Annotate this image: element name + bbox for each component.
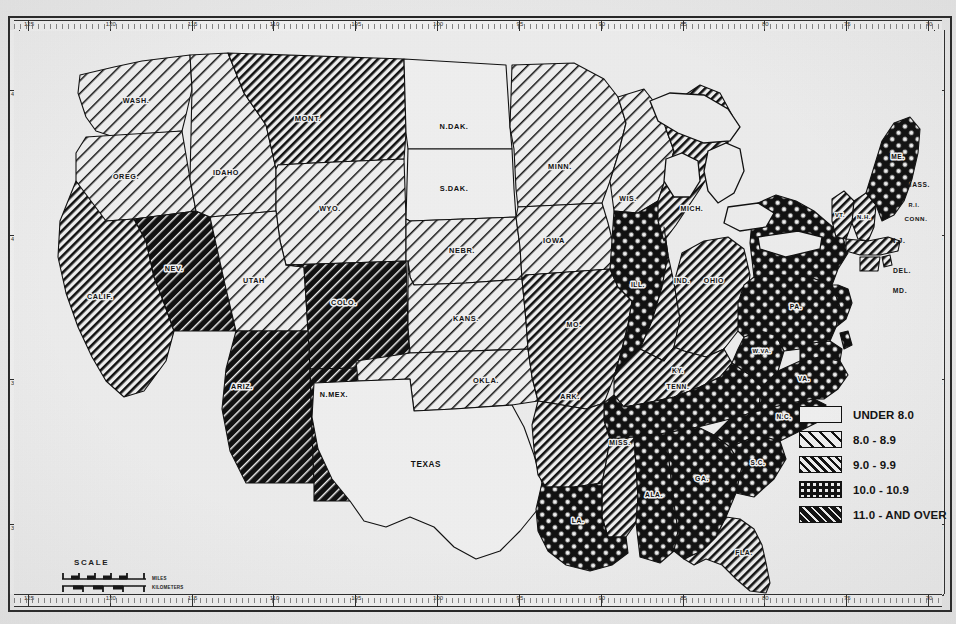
ruler-label: 115 (188, 595, 198, 601)
ruler-hash (206, 598, 207, 603)
legend-swatch-8-0-8-9[interactable] (799, 431, 842, 448)
ruler-hash (410, 598, 411, 603)
ruler-hash (590, 24, 591, 29)
ruler-hash (140, 24, 141, 29)
state-conn[interactable] (860, 257, 880, 271)
ruler-hash (860, 24, 861, 29)
ruler-hash (284, 24, 285, 29)
ruler-hash (194, 598, 195, 603)
ruler-hash (230, 24, 231, 29)
ruler-hash (80, 24, 81, 29)
ruler-hash (98, 24, 99, 29)
ruler-hash (356, 598, 357, 603)
ruler-hash (848, 598, 849, 603)
state-label-la: LA. (572, 517, 585, 524)
state-label-nc: N.C. (776, 413, 791, 420)
ruler-label: 115 (188, 21, 198, 27)
ruler-hash (470, 598, 471, 603)
ruler-hash (320, 598, 321, 603)
ruler-hash (878, 598, 879, 603)
ruler-hash (680, 598, 681, 603)
ruler-hash (326, 598, 327, 603)
state-ri[interactable] (882, 255, 892, 267)
ruler-hash (908, 24, 909, 29)
ruler-hash (68, 598, 69, 603)
state-ariz[interactable] (222, 331, 314, 483)
ruler-hash (182, 598, 183, 603)
ruler-hash (548, 24, 549, 29)
ruler-hash (896, 24, 897, 29)
ruler-hash (38, 24, 39, 29)
legend-swatch-11-0-and-over[interactable] (799, 506, 842, 523)
ruler-hash (74, 24, 75, 29)
state-wyo[interactable] (276, 159, 406, 265)
ruler-hash (548, 598, 549, 603)
ruler-hash (638, 24, 639, 29)
state-ark[interactable] (532, 401, 610, 487)
ruler-hash (758, 598, 759, 603)
state-ndak[interactable] (404, 59, 512, 149)
ruler-hash (734, 24, 735, 29)
ruler-hash (260, 24, 261, 29)
ruler-hash (536, 598, 537, 603)
state-miss[interactable] (602, 437, 638, 537)
legend-label: 9.0 - 9.9 (853, 459, 896, 471)
ruler-hash (470, 24, 471, 29)
legend-swatch-10-0-10-9[interactable] (799, 481, 842, 498)
ruler-hash (92, 598, 93, 603)
ruler-hash (728, 24, 729, 29)
ruler-hash (212, 24, 213, 29)
ruler-hash (860, 598, 861, 603)
ruler-hash (818, 598, 819, 603)
ruler-hash (38, 598, 39, 603)
ruler-hash (110, 24, 111, 29)
ruler-hash (416, 24, 417, 29)
ruler-hash (314, 24, 315, 29)
ruler-hash (434, 24, 435, 29)
ruler-hash (14, 24, 15, 29)
state-minn[interactable] (510, 63, 626, 207)
ruler-hash (674, 598, 675, 603)
legend-swatch-under-8[interactable] (799, 406, 842, 423)
legend-swatch-9-0-9-9[interactable] (799, 456, 842, 473)
map-legend: UNDER 8.08.0 - 8.99.0 - 9.910.0 - 10.911… (799, 404, 944, 529)
legend-row: 9.0 - 9.9 (799, 454, 944, 475)
ruler-hash (284, 598, 285, 603)
state-label-utah: UTAH (243, 276, 265, 285)
ruler-hash (200, 598, 201, 603)
ruler-hash (866, 598, 867, 603)
ruler-hash (188, 598, 189, 603)
ruler-hash (890, 24, 891, 29)
state-label-minn: MINN. (548, 162, 572, 171)
ruler-hash (14, 598, 15, 603)
ruler-hash (938, 24, 939, 29)
state-label-mo: MO. (566, 321, 581, 328)
ruler-hash (806, 24, 807, 29)
ruler-hash (368, 598, 369, 603)
ruler-hash (230, 598, 231, 603)
ruler-hash (632, 24, 633, 29)
legend-row: 10.0 - 10.9 (799, 479, 944, 500)
ruler-hash (500, 598, 501, 603)
ruler-hash (668, 598, 669, 603)
ruler-hash (434, 598, 435, 603)
ruler-hash (842, 598, 843, 603)
ruler-hash (902, 598, 903, 603)
ruler-hash (296, 24, 297, 29)
state-label-kans: KANS. (453, 314, 479, 323)
ruler-hash (506, 598, 507, 603)
legend-tick-icon (793, 407, 799, 409)
state-label-del: DEL. (893, 267, 911, 274)
ruler-hash (170, 24, 171, 29)
ruler-hash (368, 24, 369, 29)
ruler-hash (692, 598, 693, 603)
ruler-hash (476, 24, 477, 29)
ruler-hash (458, 24, 459, 29)
ruler-hash (428, 24, 429, 29)
ruler-hash (764, 24, 765, 29)
ruler-hash (62, 598, 63, 603)
ruler-hash (44, 24, 45, 29)
ruler-hash (620, 598, 621, 603)
ruler-hash (602, 598, 603, 603)
ruler-hash (80, 598, 81, 603)
